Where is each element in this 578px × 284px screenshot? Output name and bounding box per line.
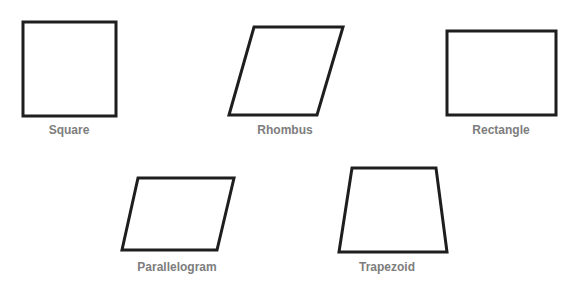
rhombus-shape [229, 27, 343, 115]
rectangle-shape [447, 31, 556, 115]
parallelogram-shape [122, 178, 234, 250]
rhombus-label: Rhombus [257, 123, 312, 137]
square-label: Square [49, 123, 90, 137]
quadrilaterals-diagram [0, 0, 578, 284]
parallelogram-label: Parallelogram [137, 260, 216, 274]
rectangle-label: Rectangle [472, 123, 529, 137]
square-shape [23, 22, 116, 116]
trapezoid-shape [339, 168, 447, 252]
trapezoid-label: Trapezoid [359, 260, 415, 274]
